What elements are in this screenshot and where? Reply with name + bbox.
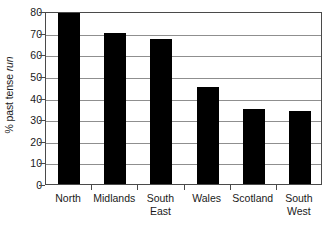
y-axis-title-text: % past tense run — [3, 56, 15, 133]
bar-chart-figure: % past tense run 80706050403020100 North… — [0, 0, 334, 226]
x-axis-tick-mark — [137, 185, 138, 190]
x-axis-label: SouthWest — [276, 192, 322, 217]
y-axis-title-plain: % past tense — [3, 71, 15, 133]
bar — [58, 13, 80, 184]
x-axis-label-line: Scotland — [230, 192, 276, 205]
x-axis-tick-marks — [45, 185, 322, 190]
x-axis-tick-mark — [91, 185, 92, 190]
x-axis-tick-mark — [276, 185, 277, 190]
x-axis-label: SouthEast — [137, 192, 183, 217]
bar — [243, 109, 265, 184]
x-axis-label: Scotland — [230, 192, 276, 205]
x-axis-label-line: South — [137, 192, 183, 205]
x-axis-label: Wales — [184, 192, 230, 205]
x-axis-label-line: Wales — [184, 192, 230, 205]
x-axis-label: Midlands — [91, 192, 137, 205]
x-axis-label-line: North — [45, 192, 91, 205]
x-axis-tick-mark — [184, 185, 185, 190]
x-axis-label: North — [45, 192, 91, 205]
x-axis-label-line: Midlands — [91, 192, 137, 205]
plot-area — [45, 12, 322, 185]
bar — [150, 39, 172, 184]
x-axis-label-line: West — [276, 205, 322, 218]
x-axis-labels: NorthMidlandsSouthEastWalesScotlandSouth… — [45, 192, 322, 224]
x-axis-tick-mark — [230, 185, 231, 190]
bars-layer — [46, 13, 321, 184]
x-axis-label-line: South — [276, 192, 322, 205]
bar — [104, 33, 126, 184]
bar — [197, 87, 219, 184]
y-axis-title-italic: run — [3, 56, 15, 71]
bar — [289, 111, 311, 185]
x-axis-label-line: East — [137, 205, 183, 218]
